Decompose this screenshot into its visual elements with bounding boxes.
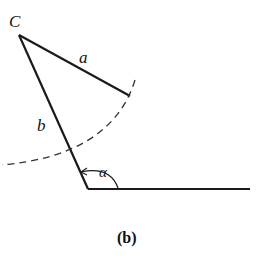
dashed-arc (2, 80, 135, 165)
figure-caption: (b) (117, 229, 137, 247)
side-b-line (19, 35, 88, 189)
label-angle-alpha: α (99, 164, 108, 180)
label-side-b: b (37, 116, 46, 135)
side-a-line (19, 35, 130, 96)
triangle-construction-diagram: C a b α (b) (0, 0, 265, 262)
label-vertex-c: C (9, 12, 21, 31)
label-side-a: a (79, 48, 88, 67)
